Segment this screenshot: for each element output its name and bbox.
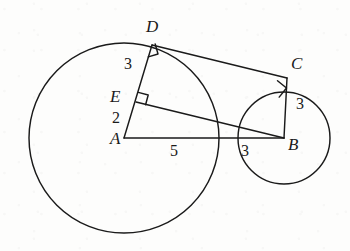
measure-label-EA: 2 [112, 110, 120, 126]
measure-label-CB: 3 [296, 96, 304, 112]
measure-label-DE: 3 [124, 56, 132, 72]
point-label-B: B [288, 136, 298, 153]
measure-label-AX: 5 [170, 143, 178, 159]
geometry-figure [0, 0, 350, 251]
segment-DC-tangent [152, 45, 287, 78]
measure-label-XB: 3 [241, 143, 249, 159]
point-label-D: D [146, 18, 158, 35]
point-label-C: C [291, 55, 302, 72]
segment-EB [136, 102, 284, 138]
point-label-E: E [110, 88, 120, 105]
diagram-canvas: A B C D E 3 2 5 3 3 [0, 0, 350, 251]
point-label-A: A [110, 130, 120, 147]
right-angle-mark-at-C [278, 81, 287, 97]
